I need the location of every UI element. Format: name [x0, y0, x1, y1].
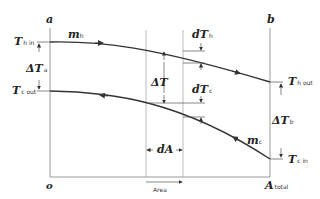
svg-text:Tc out: Tc out: [12, 84, 37, 97]
label-Th-out: T: [288, 75, 297, 88]
svg-text:a: a: [46, 13, 53, 26]
cold-flow-arrow2-icon: [233, 137, 240, 141]
svg-text:mh: mh: [68, 28, 84, 41]
svg-text:Atotal: Atotal: [264, 179, 289, 192]
svg-text:dTh: dTh: [192, 28, 213, 41]
svg-text:dTc: dTc: [192, 83, 212, 96]
label-delta-Tb: ΔT: [271, 114, 290, 127]
label-b: b: [267, 13, 275, 26]
label-origin: o: [46, 180, 53, 191]
label-area: Area: [153, 186, 167, 193]
svg-text:Th out: Th out: [288, 75, 313, 88]
label-Tc-in: T: [288, 153, 297, 166]
svg-text:b: b: [267, 13, 275, 26]
label-Tc-out: T: [12, 84, 21, 97]
svg-text:ΔTa: ΔTa: [25, 62, 48, 75]
label-dTh: dT: [192, 28, 209, 41]
label-Th-in: T: [14, 35, 23, 48]
label-dA: dA: [157, 143, 174, 156]
heat-exchanger-diagram: a b o Atotal Area Th in Tc out ΔTa mh mc…: [0, 0, 320, 199]
label-A: A: [264, 179, 274, 192]
svg-text:ΔTb: ΔTb: [271, 114, 294, 127]
label-mc: m: [247, 134, 259, 147]
label-a: a: [46, 13, 53, 26]
label-delta-Ta: ΔT: [25, 62, 44, 75]
label-dTc: dT: [192, 83, 209, 96]
label-delta-T: ΔT: [150, 76, 169, 89]
svg-text:Tc in: Tc in: [288, 153, 308, 166]
svg-text:Th in: Th in: [14, 35, 35, 48]
label-mh: m: [68, 28, 80, 41]
svg-text:mc: mc: [247, 134, 262, 147]
svg-text:o: o: [46, 180, 53, 191]
